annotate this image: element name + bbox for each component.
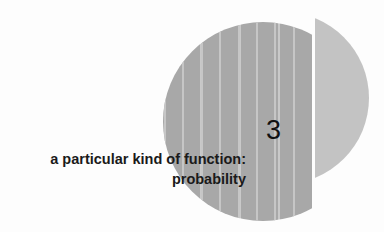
stripe xyxy=(293,22,295,221)
disc-segment-clip xyxy=(315,0,384,232)
chapter-title: a particular kind of function: probabili… xyxy=(50,149,246,189)
striped-disc xyxy=(163,22,312,221)
chapter-title-page: 3 a particular kind of function: probabi… xyxy=(0,0,384,232)
stripe xyxy=(201,22,203,221)
stripe xyxy=(219,22,221,221)
chapter-title-line2: probability xyxy=(50,169,246,189)
chapter-number: 3 xyxy=(266,117,281,144)
stripe xyxy=(164,22,166,221)
chapter-title-line1: a particular kind of function: xyxy=(50,149,246,169)
stripe xyxy=(238,22,240,221)
stripe xyxy=(182,22,184,221)
disc-segment xyxy=(315,12,369,184)
stripe xyxy=(256,22,258,221)
